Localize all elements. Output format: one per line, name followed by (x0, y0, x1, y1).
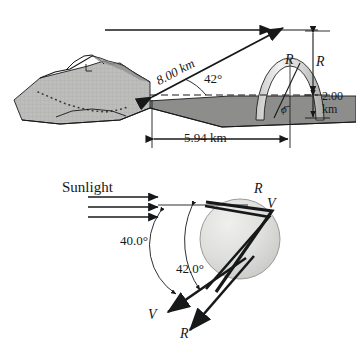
terrain-landmass (14, 55, 150, 124)
sunlight-label: Sunlight (62, 180, 113, 195)
horizontal-distance-label: 5.94 km (184, 131, 227, 144)
figure-canvas (0, 0, 356, 352)
angle-violet-label: 40.0° (120, 234, 148, 247)
ray-red-in-label: R (254, 182, 263, 196)
ray-violet-in-label: V (267, 197, 276, 211)
angle-red-arc (185, 206, 200, 290)
elevation-angle-arc (185, 79, 206, 95)
base-height-label: 2.00 (322, 90, 343, 102)
rainbow-height-label: R (316, 55, 325, 69)
rainbow-radius-label: R (285, 53, 294, 67)
ray-violet-out-label: V (148, 308, 157, 322)
angle-violet-arc (149, 212, 176, 294)
phi-angle-label: ϕ (281, 104, 287, 115)
base-height-unit-label: km (322, 103, 337, 115)
angle-red-label: 42.0° (176, 262, 204, 275)
ray-red-out-label: R (180, 327, 189, 341)
elevation-angle-label: 42° (204, 72, 222, 85)
rainbow-figure: 8.00 km 42° R R 2.00 km ϕ 5.94 km Sunlig… (0, 0, 356, 352)
